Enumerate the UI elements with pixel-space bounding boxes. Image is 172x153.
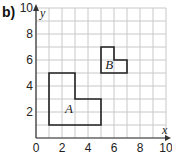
y-tick-label: 4 <box>26 79 33 93</box>
x-tick-label: 10 <box>159 141 172 153</box>
x-tick-label: 6 <box>111 141 118 153</box>
y-tick-label: 2 <box>26 105 33 119</box>
y-axis-label: y <box>39 6 46 20</box>
shape-label-b: B <box>105 57 113 72</box>
y-tick-label: 6 <box>26 53 33 67</box>
shape-label-a: A <box>64 101 73 116</box>
x-tick-label: 4 <box>85 141 92 153</box>
tick-labels: AB0246810246810xy <box>20 1 172 153</box>
x-tick-label: 8 <box>137 141 144 153</box>
x-tick-label: 0 <box>33 141 40 153</box>
x-tick-label: 2 <box>59 141 66 153</box>
coordinate-grid: AB0246810246810xy <box>0 0 172 153</box>
y-tick-label: 10 <box>20 1 34 15</box>
x-axis-label: x <box>161 123 168 137</box>
y-tick-label: 8 <box>26 27 33 41</box>
